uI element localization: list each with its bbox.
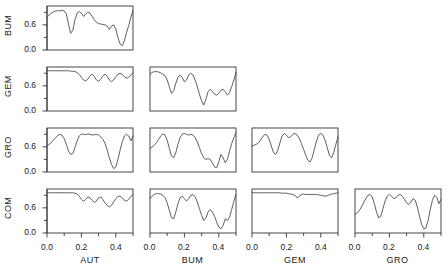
plot-frame	[47, 189, 133, 233]
coherency-line-com-gem	[252, 193, 338, 198]
panel-com-gro	[346, 187, 443, 242]
coherency-line-gro-aut	[47, 134, 133, 169]
coherency-line-gro-gem	[252, 133, 338, 161]
panel-gro-bum	[141, 126, 238, 174]
row-label-bum: BUM	[0, 20, 16, 36]
y-axis-tick-label: 0.0	[6, 227, 36, 237]
panel-canvas	[346, 187, 443, 242]
x-axis-tick-label: 0.2	[67, 242, 95, 252]
x-axis-tick-label: 0.2	[272, 242, 300, 252]
panel-canvas	[243, 126, 340, 174]
row-label-com: COM	[0, 203, 16, 219]
row-label-text: COM	[0, 203, 16, 219]
coherency-line-com-gro	[355, 194, 441, 228]
panel-com-bum	[141, 187, 238, 242]
column-label-gem: GEM	[252, 255, 338, 265]
y-axis-tick-label: 0.0	[6, 44, 36, 54]
panel-gem-aut	[38, 65, 135, 113]
panel-gro-gem	[243, 126, 340, 174]
coherency-line-gem-bum	[150, 72, 236, 106]
column-label-bum: BUM	[150, 255, 236, 265]
panel-canvas	[141, 65, 238, 113]
panel-gem-bum	[141, 65, 238, 113]
plot-frame	[150, 128, 236, 172]
x-axis-tick-label: 0.4	[102, 242, 130, 252]
panel-bum-aut	[38, 4, 135, 52]
panel-com-gem	[243, 187, 340, 242]
coherency-line-bum-aut	[47, 10, 133, 46]
panel-canvas	[38, 65, 135, 113]
panel-canvas	[38, 4, 135, 52]
x-axis-tick-label: 0.2	[170, 242, 198, 252]
y-axis-tick-label: 0.0	[6, 166, 36, 176]
x-axis-tick-label: 0.4	[307, 242, 335, 252]
coherency-line-com-bum	[150, 194, 236, 229]
x-axis-tick-label: 0.0	[341, 242, 369, 252]
panel-com-aut	[38, 187, 135, 242]
column-label-gro: GRO	[355, 255, 441, 265]
panel-canvas	[141, 187, 238, 242]
coherency-line-gem-aut	[47, 71, 133, 82]
column-label-aut: AUT	[47, 255, 133, 265]
panel-canvas	[38, 187, 135, 242]
coherency-line-com-aut	[47, 193, 133, 207]
x-axis-tick-label: 0.0	[238, 242, 266, 252]
panel-canvas	[243, 187, 340, 242]
row-label-text: BUM	[0, 20, 16, 36]
row-label-gem: GEM	[0, 81, 16, 97]
row-label-text: GEM	[0, 81, 16, 97]
coherency-line-gro-bum	[150, 133, 236, 168]
x-axis-tick-label: 0.2	[375, 242, 403, 252]
panel-gro-aut	[38, 126, 135, 174]
panel-canvas	[141, 126, 238, 174]
x-axis-tick-label: 0.4	[409, 242, 437, 252]
row-label-text: GRO	[0, 142, 16, 158]
y-axis-tick-label: 0.0	[6, 105, 36, 115]
panel-canvas	[38, 126, 135, 174]
coherency-matrix-figure: 0.00.60.00.60.00.60.00.60.00.20.40.00.20…	[0, 0, 448, 275]
row-label-gro: GRO	[0, 142, 16, 158]
x-axis-tick-label: 0.4	[204, 242, 232, 252]
x-axis-tick-label: 0.0	[33, 242, 61, 252]
x-axis-tick-label: 0.0	[136, 242, 164, 252]
